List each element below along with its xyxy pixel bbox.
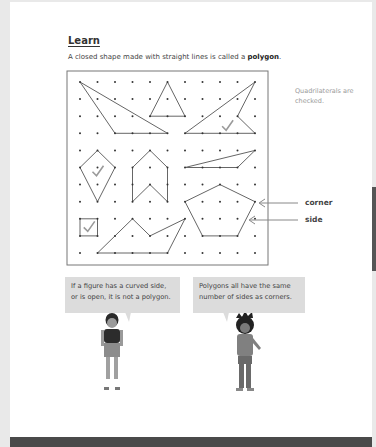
grid-dot bbox=[97, 235, 99, 237]
grid-dot bbox=[149, 149, 151, 151]
grid-dot bbox=[97, 201, 99, 203]
grid-dot bbox=[97, 81, 99, 83]
grid-dot bbox=[132, 167, 134, 169]
grid-dot bbox=[132, 235, 134, 237]
grid-dot bbox=[132, 81, 134, 83]
check-mark-icon bbox=[222, 120, 233, 130]
check-mark-icon bbox=[84, 221, 95, 231]
grid-dot bbox=[202, 235, 204, 237]
grid-dot bbox=[219, 115, 221, 117]
grid-dot bbox=[167, 98, 169, 100]
grid-dot bbox=[202, 252, 204, 254]
grid-dot bbox=[114, 149, 116, 151]
grid-dot bbox=[202, 167, 204, 169]
grid-dot bbox=[132, 184, 134, 186]
bubble-line: number of sides as corners. bbox=[199, 292, 300, 303]
grid-dot bbox=[202, 115, 204, 117]
grid-dot bbox=[254, 252, 256, 254]
grid-dot bbox=[79, 235, 81, 237]
grid-dot bbox=[114, 252, 116, 254]
shape-concave-quadrilateral bbox=[185, 82, 255, 133]
grid-dot bbox=[184, 81, 186, 83]
grid-dot bbox=[167, 115, 169, 117]
shape-chevron-hexagon bbox=[133, 150, 168, 201]
grid-dot bbox=[254, 81, 256, 83]
grid-dot bbox=[114, 218, 116, 220]
grid-dot bbox=[254, 184, 256, 186]
grid-dot bbox=[184, 201, 186, 203]
grid-dot bbox=[114, 81, 116, 83]
grid-dot bbox=[79, 167, 81, 169]
grid-dot bbox=[132, 115, 134, 117]
grid-dot bbox=[184, 132, 186, 134]
grid-dot bbox=[202, 149, 204, 151]
grid-dot bbox=[219, 235, 221, 237]
grid-dot bbox=[254, 235, 256, 237]
grid-dot bbox=[97, 167, 99, 169]
grid-dot bbox=[79, 184, 81, 186]
grid-dot bbox=[219, 218, 221, 220]
grid-dot bbox=[237, 235, 239, 237]
footer-bar bbox=[10, 437, 372, 447]
side-label: side bbox=[305, 215, 323, 224]
grid-dot bbox=[97, 98, 99, 100]
grid-dot bbox=[114, 132, 116, 134]
grid-dot bbox=[167, 235, 169, 237]
grid-dot bbox=[132, 252, 134, 254]
shape-thin-triangle bbox=[185, 150, 255, 167]
grid-dot bbox=[254, 201, 256, 203]
grid-dot bbox=[114, 184, 116, 186]
grid-dot bbox=[184, 149, 186, 151]
grid-dot bbox=[184, 235, 186, 237]
grid-dot bbox=[219, 81, 221, 83]
grid-dot bbox=[202, 98, 204, 100]
grid-dot bbox=[167, 149, 169, 151]
grid-dot bbox=[237, 184, 239, 186]
grid-dot bbox=[79, 132, 81, 134]
grid-dot bbox=[132, 132, 134, 134]
grid-dot bbox=[97, 132, 99, 134]
grid-dot bbox=[149, 98, 151, 100]
grid-dot bbox=[114, 167, 116, 169]
girl-figure bbox=[101, 313, 123, 390]
grid-dot bbox=[184, 167, 186, 169]
grid-dot bbox=[167, 81, 169, 83]
grid-dot bbox=[237, 98, 239, 100]
grid-dot bbox=[237, 81, 239, 83]
speech-bubble-girl: If a figure has a curved side, or is ope… bbox=[65, 277, 180, 313]
grid-dot bbox=[132, 218, 134, 220]
grid-dot bbox=[132, 149, 134, 151]
shape-concave-pentagon bbox=[98, 219, 186, 253]
grid-dot bbox=[149, 201, 151, 203]
grid-dot bbox=[219, 98, 221, 100]
grid-dot bbox=[202, 218, 204, 220]
grid-dot bbox=[149, 132, 151, 134]
bubble-line: Polygons all have the same bbox=[199, 281, 300, 292]
grid-dot bbox=[167, 218, 169, 220]
grid-dot bbox=[202, 81, 204, 83]
grid-dot bbox=[79, 218, 81, 220]
grid-dot bbox=[219, 184, 221, 186]
grid-dot bbox=[79, 252, 81, 254]
side-arrow-icon bbox=[249, 216, 298, 224]
grid-dot bbox=[184, 98, 186, 100]
bubble-line: or is open, it is not a polygon. bbox=[71, 292, 175, 303]
grid-dot bbox=[114, 115, 116, 117]
grid-dot bbox=[219, 149, 221, 151]
grid-dot bbox=[167, 252, 169, 254]
grid-dot bbox=[254, 98, 256, 100]
grid-dot bbox=[219, 201, 221, 203]
shape-pentagon bbox=[185, 185, 255, 236]
grid-dot bbox=[79, 149, 81, 151]
grid-dot bbox=[254, 167, 256, 169]
grid-dot bbox=[219, 132, 221, 134]
grid-dot bbox=[149, 81, 151, 83]
grid-dot bbox=[79, 98, 81, 100]
grid-dot bbox=[237, 149, 239, 151]
grid-dot bbox=[167, 201, 169, 203]
grid-dot bbox=[237, 167, 239, 169]
grid-dot bbox=[184, 218, 186, 220]
grid-dot bbox=[79, 201, 81, 203]
grid-dot bbox=[114, 235, 116, 237]
grid-dot bbox=[237, 201, 239, 203]
